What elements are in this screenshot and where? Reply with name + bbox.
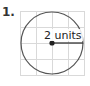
circle-diagram: 2 units — [0, 0, 90, 86]
radius-label: 2 units — [44, 29, 82, 42]
